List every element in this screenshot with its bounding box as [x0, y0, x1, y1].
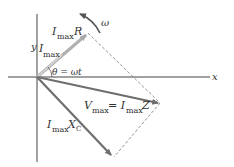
- omega-label: ω: [101, 17, 109, 28]
- svg-text:max: max: [57, 32, 74, 41]
- label-current: I max: [38, 42, 60, 59]
- svg-text:max: max: [126, 106, 143, 115]
- phasor-capacitor: [37, 77, 111, 155]
- svg-text:C: C: [76, 125, 81, 133]
- label-capacitor: I max X C: [46, 118, 81, 134]
- svg-text:max: max: [52, 125, 69, 134]
- svg-text:R: R: [73, 25, 82, 38]
- x-axis-label: x: [212, 71, 218, 82]
- svg-text:= I: = I: [108, 99, 126, 112]
- phasor-diagram: y x ω θ = ωt I max R I max V max = I max…: [0, 0, 234, 167]
- label-resistor: I max R: [51, 25, 82, 41]
- svg-text:max: max: [92, 106, 109, 115]
- label-total-voltage: V max = I max Z: [84, 99, 150, 115]
- phasor-total-voltage: [37, 77, 158, 103]
- angle-label: θ = ωt: [52, 67, 82, 77]
- dashed-line-r-to-v: [88, 33, 160, 103]
- rotation-arrow-icon: [80, 14, 100, 33]
- y-axis-label: y: [30, 41, 37, 52]
- svg-text:Z: Z: [141, 99, 150, 112]
- svg-text:max: max: [43, 50, 60, 59]
